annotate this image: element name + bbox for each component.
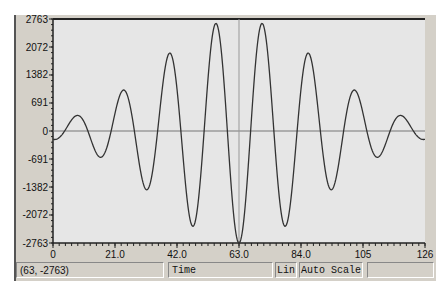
y-tick-label: -691 (28, 154, 48, 165)
y-tick-label: -2763 (22, 238, 48, 249)
line-chart[interactable]: 2763207213826910-691-1382-2072-2763 021.… (0, 0, 439, 292)
x-tick-label: 0 (50, 249, 56, 260)
x-tick-label: 126 (417, 249, 434, 260)
y-tick-label: 1382 (26, 69, 49, 80)
scale-type[interactable]: Lin (275, 262, 297, 278)
y-tick-label: 2763 (26, 14, 49, 25)
x-tick-label: 63.0 (229, 249, 249, 260)
y-axis-ticks: 2763207213826910-691-1382-2072-2763 (22, 14, 53, 249)
y-tick-label: -2072 (22, 209, 48, 220)
x-axis-ticks: 021.042.063.084.0105126 (50, 243, 434, 260)
x-tick-label: 84.0 (291, 249, 311, 260)
status-extra (367, 262, 434, 278)
y-tick-label: -1382 (22, 182, 48, 193)
x-tick-label: 21.0 (105, 249, 125, 260)
scale-mode[interactable]: Auto Scale (299, 262, 363, 278)
y-tick-label: 0 (42, 126, 48, 137)
y-tick-label: 2072 (26, 42, 49, 53)
y-tick-label: 691 (31, 97, 48, 108)
x-axis-label[interactable]: Time (168, 262, 273, 278)
cursor-coordinates: (63, -2763) (16, 262, 164, 278)
x-tick-label: 42.0 (167, 249, 187, 260)
status-bar: (63, -2763) Time Lin Auto Scale (16, 261, 434, 279)
x-tick-label: 105 (355, 249, 372, 260)
